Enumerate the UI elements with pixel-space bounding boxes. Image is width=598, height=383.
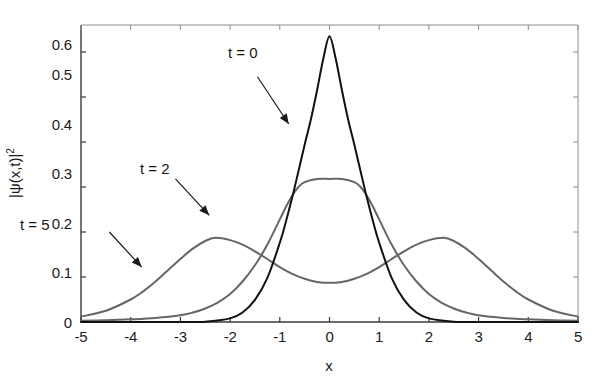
plot-canvas <box>0 0 598 383</box>
xtick-label-0: 0 <box>325 328 333 345</box>
xtick-label--4: -4 <box>124 328 137 345</box>
x-axis-label: x <box>325 357 333 374</box>
xtick-label-1: 1 <box>375 328 383 345</box>
annotation-arrow-2 <box>109 232 141 267</box>
ytick-label-0: 0 <box>26 314 72 331</box>
wave-packet-spreading-chart: 0 0.1 0.2 0.3 0.4 0.5 0.6 -5 -4 -3 -2 -1… <box>0 0 598 383</box>
xtick-label-2: 2 <box>425 328 433 345</box>
xtick-label--1: -1 <box>273 328 286 345</box>
annotation-arrow-1 <box>175 179 209 215</box>
xtick-label-3: 3 <box>475 328 483 345</box>
annotation-arrows-group <box>109 77 288 267</box>
annotation-t5: t = 5 <box>20 216 50 233</box>
xtick-label--2: -2 <box>224 328 237 345</box>
annotation-arrow-0 <box>257 77 288 124</box>
xtick-label-4: 4 <box>524 328 532 345</box>
xtick-label-5: 5 <box>574 328 582 345</box>
ytick-label-0.5: 0.5 <box>26 66 72 83</box>
curves-group <box>81 36 578 322</box>
ytick-label-0.3: 0.3 <box>26 165 72 182</box>
curve-t2 <box>81 179 578 321</box>
xtick-label--5: -5 <box>75 328 88 345</box>
curve-t5 <box>81 238 578 317</box>
y-axis-label: |ψ(x,t)|2 <box>5 148 23 198</box>
ytick-label-0.1: 0.1 <box>26 264 72 281</box>
ytick-label-0.6: 0.6 <box>26 36 72 53</box>
ytick-label-0.4: 0.4 <box>26 116 72 133</box>
annotation-t0: t = 0 <box>228 44 258 61</box>
annotation-t2: t = 2 <box>140 160 170 177</box>
xtick-label--3: -3 <box>174 328 187 345</box>
